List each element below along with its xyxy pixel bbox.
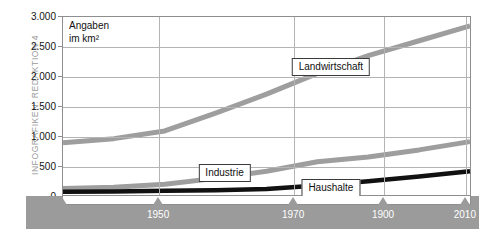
x-tick-notch [153, 197, 163, 205]
x-tick-label: 2010 [454, 209, 476, 220]
gridline-vertical [384, 17, 385, 195]
plot-area: Angaben im km² LandwirtschaftIndustrieHa… [62, 16, 471, 196]
gridline-vertical [466, 17, 467, 195]
gridline-horizontal [63, 137, 470, 138]
x-tick-label: 1970 [282, 209, 304, 220]
gridline-vertical [294, 17, 295, 195]
x-axis-band: 1950197019002010 [26, 196, 479, 229]
series-callout-haushalte: Haushalte [301, 179, 360, 197]
gridline-horizontal [63, 167, 470, 168]
series-lines [63, 17, 470, 195]
gridline-vertical [159, 17, 160, 195]
gridline-horizontal [63, 107, 470, 108]
y-tick-label: 1.500 [31, 101, 56, 112]
y-tick-label: 2.000 [31, 71, 56, 82]
series-callout-landwirtschaft: Landwirtschaft [292, 58, 370, 76]
series-line-industrie [63, 142, 470, 189]
x-tick-notch [460, 197, 470, 205]
x-tick-notch [288, 197, 298, 205]
x-tick-notch [57, 197, 67, 205]
y-tick-label: 3.000 [31, 11, 56, 22]
infographic-chart: INFOGRAFIKEN: REDAKTION 4 05001.0001.500… [0, 0, 479, 229]
y-tick-label: 500 [39, 161, 56, 172]
series-callout-industrie: Industrie [198, 164, 250, 182]
y-axis: 05001.0001.5002.0002.5003.000 [0, 0, 62, 229]
gridline-horizontal [63, 47, 470, 48]
x-tick-label: 1950 [147, 209, 169, 220]
y-tick-label: 1.000 [31, 131, 56, 142]
x-tick-notch [378, 197, 388, 205]
x-tick-label: 1900 [372, 209, 394, 220]
y-tick-label: 2.500 [31, 41, 56, 52]
gridline-horizontal [63, 77, 470, 78]
x-axis-baseline [62, 196, 471, 205]
series-line-landwirtschaft [63, 26, 470, 143]
